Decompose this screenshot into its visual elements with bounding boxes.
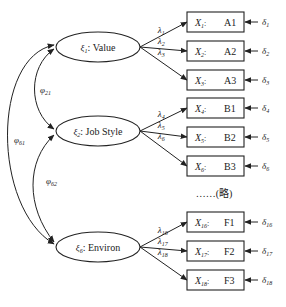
indicator-f3: X18:F3: [187, 270, 244, 290]
delta-label: δ2: [262, 46, 269, 57]
sem-diagram: ξ1: Valueξ2: Job Styleξ6: EnvironX1:A1X2…: [0, 0, 286, 307]
indicator-a3: X3:A3: [187, 70, 244, 90]
indicator-b2: X5:B2: [187, 127, 244, 147]
lambda-label: λ16: [157, 225, 168, 236]
lambda-label: λ18: [157, 247, 168, 258]
delta-label: δ18: [262, 275, 272, 286]
delta-label: δ17: [262, 246, 273, 257]
indicator-f2: X17:F2: [187, 241, 244, 261]
loading-arrow: [140, 247, 187, 251]
delta-label: δ16: [262, 217, 272, 228]
indicator-a1: X1:A1: [187, 12, 244, 32]
delta-label: δ5: [262, 132, 269, 143]
delta-label: δ6: [262, 161, 269, 172]
lambda-label: λ6: [157, 131, 165, 142]
delta-label: δ1: [262, 17, 269, 28]
ellipsis-note: ……(略): [196, 187, 233, 200]
phi-label: φ61: [14, 135, 25, 146]
covariance-phi62: [33, 135, 54, 242]
latent-factor-value: ξ1: Value: [56, 32, 140, 62]
indicator-f1: X16:F1: [187, 212, 244, 232]
delta-label: δ4: [262, 103, 269, 114]
indicator-a2: X2:A2: [187, 41, 244, 61]
lambda-label: λ3: [157, 47, 165, 58]
indicator-b3: X6:B3: [187, 156, 244, 176]
phi-label: φ62: [46, 176, 57, 187]
indicator-b1: X4:B1: [187, 98, 244, 118]
lambda-label: λ17: [157, 236, 169, 247]
latent-label: ξ2: Job Style: [73, 126, 123, 138]
lambda-label: λ5: [157, 120, 165, 131]
lambda-label: λ1: [157, 25, 165, 36]
latent-factor-environ: ξ6: Environ: [56, 232, 140, 262]
delta-label: δ3: [262, 75, 269, 86]
latent-label: ξ6: Environ: [76, 242, 120, 254]
phi-label: φ21: [40, 85, 51, 96]
lambda-label: λ2: [157, 36, 165, 47]
latent-factor-job-style: ξ2: Job Style: [56, 116, 140, 146]
lambda-label: λ4: [157, 109, 165, 120]
loading-arrow: [140, 47, 187, 51]
